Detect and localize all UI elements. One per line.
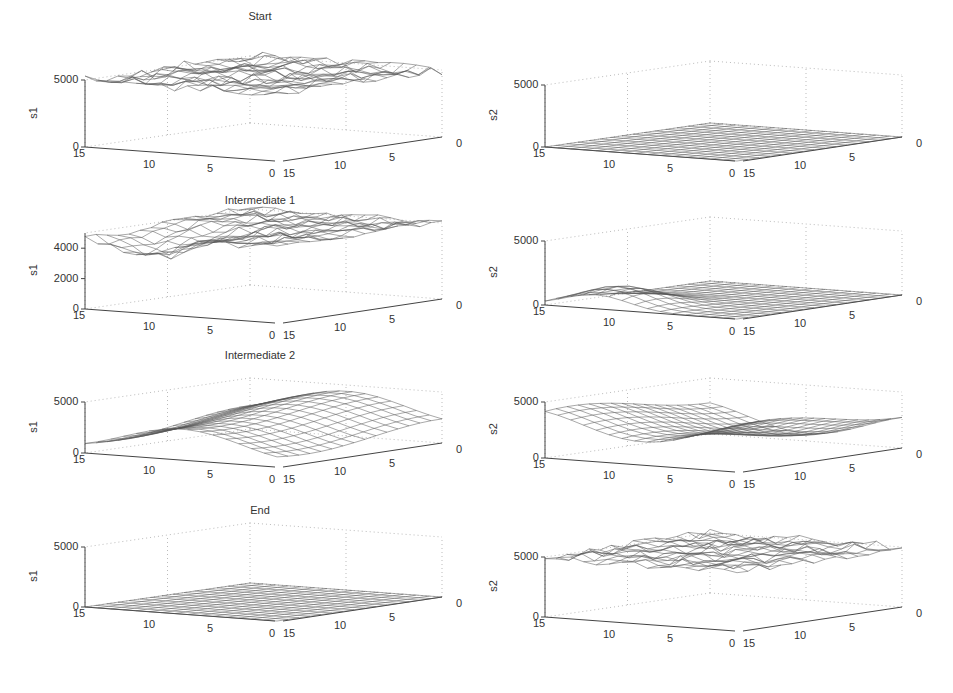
- x-tick-label: 5: [667, 632, 673, 644]
- surface-plot: [0, 0, 953, 693]
- z-tick-label: 5000: [514, 550, 538, 562]
- x-tick-label: 0: [729, 637, 735, 649]
- y-tick-label: 10: [794, 629, 806, 641]
- figure: Start05000s1151050151050 05000s215105015…: [0, 0, 953, 693]
- x-tick-label: 10: [603, 628, 615, 640]
- x-tick-label: 15: [533, 617, 545, 629]
- y-tick-label: 0: [916, 607, 922, 619]
- y-tick-label: 15: [743, 637, 755, 649]
- z-axis-label: s2: [487, 580, 499, 592]
- y-tick-label: 5: [849, 621, 855, 633]
